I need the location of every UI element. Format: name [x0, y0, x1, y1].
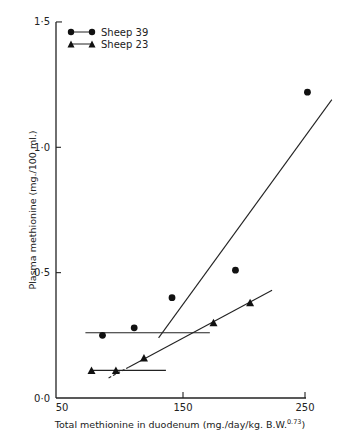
x-tick-label: 250: [295, 402, 314, 413]
x-tick-label: 50: [56, 402, 69, 413]
circle-marker-icon: [89, 29, 95, 35]
legend-item-sheep-39: Sheep 39: [68, 27, 148, 38]
fit-line: [159, 100, 332, 338]
circle-marker-icon: [169, 294, 176, 301]
legend-label: Sheep 39: [101, 27, 148, 38]
chart-canvas: 0·00·51·01·5 50150250 Plasma methionine …: [0, 0, 345, 442]
legend: Sheep 39 Sheep 23: [68, 27, 149, 50]
y-axis-title: Plasma methionine (mg./100 ml.): [27, 130, 38, 289]
legend-label: Sheep 23: [101, 39, 148, 50]
data-points: [88, 89, 311, 374]
circle-marker-icon: [131, 324, 138, 331]
fit-lines: [85, 100, 331, 378]
y-tick-label: 0·0: [34, 393, 50, 404]
circle-marker-icon: [304, 89, 311, 96]
y-tick-label: 1·5: [34, 16, 50, 27]
x-tick-label: 150: [173, 402, 192, 413]
legend-item-sheep-23: Sheep 23: [68, 39, 149, 50]
circle-marker-icon: [99, 332, 106, 339]
circle-marker-icon: [232, 267, 239, 274]
y-ticks: 0·00·51·01·5: [34, 16, 62, 403]
x-ticks: 50150250: [56, 392, 315, 413]
circle-marker-icon: [68, 29, 74, 35]
axes: [56, 22, 306, 398]
x-axis-title: Total methionine in duodenum (mg./day/kg…: [54, 418, 305, 430]
